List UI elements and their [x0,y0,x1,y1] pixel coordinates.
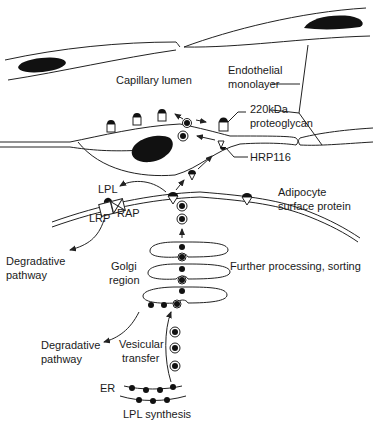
label-lpl: LPL [98,183,118,195]
upper-endothelial-cell [5,8,370,80]
nucleus-icon [17,56,66,75]
label-region: region [109,274,140,286]
label-pathway-2: pathway [41,353,82,365]
lower-endothelial-cell [0,124,373,176]
label-endothelial: Endothelial [228,64,282,76]
label-capillary-lumen: Capillary lumen [116,74,192,86]
lpl-pathway-diagram: Capillary lumen Endothelial monolayer 22… [0,0,373,424]
proteoglycan-sites [107,109,228,132]
label-lrp: LRP [89,212,110,224]
label-degradative-2: Degradative [41,339,100,351]
label-pathway-1: pathway [6,269,47,281]
label-further-processing: Further processing, sorting [230,260,361,272]
label-lpl-synthesis: LPL synthesis [123,408,192,420]
label-220kda: 220kDa [250,103,289,115]
leader-line [226,148,248,157]
label-hrp116: HRP116 [250,151,291,163]
label-transfer: transfer [122,352,160,364]
label-er: ER [100,382,115,394]
golgi-stack [143,242,230,308]
label-degradative-1: Degradative [6,255,65,267]
nucleus-icon [304,16,363,30]
label-adipocyte: Adipocyte [278,186,326,198]
leader-line [228,112,246,122]
hrp116-receptor-icon [218,141,224,148]
label-monolayer: monolayer [228,78,280,90]
label-rap: RAP [117,207,140,219]
endoplasmic-reticulum [120,384,186,404]
label-golgi: Golgi [111,260,137,272]
label-vesicular: Vesicular [119,338,164,350]
nucleus-icon [132,136,173,162]
label-proteoglycan: proteoglycan [250,117,313,129]
label-surface-protein: surface protein [278,200,351,212]
